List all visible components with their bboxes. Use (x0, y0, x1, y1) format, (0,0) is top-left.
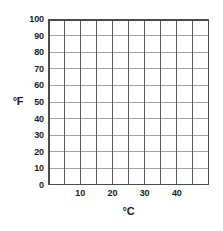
y-axis-tick-label: 30 (17, 130, 44, 140)
plot-area (48, 19, 209, 185)
x-axis-tick-label: 10 (68, 188, 92, 198)
y-axis-tick-label: 60 (17, 80, 44, 90)
x-axis-tick-label: 30 (133, 188, 157, 198)
y-axis-tick-label: 10 (17, 163, 44, 173)
x-axis-title: °C (48, 205, 209, 217)
y-axis-tick-label: 90 (17, 31, 44, 41)
y-axis-tick-label: 20 (17, 147, 44, 157)
x-axis-tick-label: 20 (100, 188, 124, 198)
y-axis-tick-label: 50 (17, 97, 44, 107)
grid-lines (48, 19, 209, 185)
temperature-conversion-chart: °F 1009080706050403020100 10203040 °C (0, 0, 223, 231)
y-axis-tick-label: 100 (17, 14, 44, 24)
y-axis-tick-label: 70 (17, 64, 44, 74)
x-axis-tick-label: 40 (165, 188, 189, 198)
x-axis-tick-labels: 10203040 (0, 188, 223, 200)
y-axis-tick-label: 80 (17, 47, 44, 57)
y-axis-tick-label: 40 (17, 114, 44, 124)
